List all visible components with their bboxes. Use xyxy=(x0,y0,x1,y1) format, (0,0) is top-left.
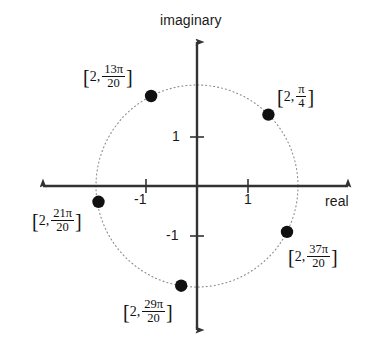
fraction-pi-over-4: π 4 xyxy=(296,83,306,110)
point-label-13pi-over-20: [ 2 , 13π 20 ] xyxy=(83,63,133,90)
data-point-13pi-over-20 xyxy=(145,90,157,102)
fraction-numerator-pi-over-4: π xyxy=(296,83,306,96)
comma-37pi-over-20: , xyxy=(302,250,306,264)
comma-21pi-over-20: , xyxy=(46,214,50,228)
bracket-close-pi-over-4: ] xyxy=(307,87,314,107)
magnitude-29pi-over-20: 2 xyxy=(130,305,137,319)
fraction-numerator-13pi-over-20: 13π xyxy=(102,63,125,76)
fraction-numerator-29pi-over-20: 29π xyxy=(142,298,165,311)
fraction-37pi-over-20: 37π 20 xyxy=(307,243,330,270)
bracket-close-13pi-over-20: ] xyxy=(126,67,133,87)
data-point-37pi-over-20 xyxy=(281,226,293,238)
point-label-21pi-over-20: [ 2 , 21π 20 ] xyxy=(32,207,82,234)
bracket-close-29pi-over-20: ] xyxy=(166,302,173,322)
fraction-denominator-pi-over-4: 4 xyxy=(296,97,306,110)
real-axis-label: real xyxy=(325,193,349,209)
bracket-close-37pi-over-20: ] xyxy=(331,247,338,267)
fraction-21pi-over-20: 21π 20 xyxy=(51,207,74,234)
imaginary-axis-label: imaginary xyxy=(160,12,222,28)
comma-29pi-over-20: , xyxy=(137,305,141,319)
comma-pi-over-4: , xyxy=(291,90,295,104)
bracket-open-29pi-over-20: [ xyxy=(123,302,130,322)
polar-pair-37pi-over-20: [ 2 , 37π 20 ] xyxy=(288,243,338,270)
tick-label-x-positive-one: 1 xyxy=(244,191,252,207)
fraction-13pi-over-20: 13π 20 xyxy=(102,63,125,90)
fraction-29pi-over-20: 29π 20 xyxy=(142,298,165,325)
bracket-open-21pi-over-20: [ xyxy=(32,211,39,231)
bracket-open-37pi-over-20: [ xyxy=(288,247,295,267)
point-label-37pi-over-20: [ 2 , 37π 20 ] xyxy=(288,243,338,270)
data-point-21pi-over-20 xyxy=(92,196,104,208)
data-point-29pi-over-20 xyxy=(175,280,187,292)
magnitude-37pi-over-20: 2 xyxy=(295,250,302,264)
tick-label-x-negative-one: -1 xyxy=(134,191,146,207)
point-label-29pi-over-20: [ 2 , 29π 20 ] xyxy=(123,298,173,325)
polar-pair-29pi-over-20: [ 2 , 29π 20 ] xyxy=(123,298,173,325)
polar-pair-pi-over-4: [ 2 , π 4 ] xyxy=(277,83,314,110)
fraction-numerator-21pi-over-20: 21π xyxy=(51,207,74,220)
data-point-pi-over-4 xyxy=(262,108,274,120)
magnitude-21pi-over-20: 2 xyxy=(39,214,46,228)
bracket-open-pi-over-4: [ xyxy=(277,87,284,107)
bracket-close-21pi-over-20: ] xyxy=(75,211,82,231)
tick-label-y-negative-one: -1 xyxy=(166,227,178,243)
tick-label-y-positive-one: 1 xyxy=(172,128,180,144)
polar-pair-13pi-over-20: [ 2 , 13π 20 ] xyxy=(83,63,133,90)
fraction-denominator-37pi-over-20: 20 xyxy=(310,257,327,270)
fraction-denominator-29pi-over-20: 20 xyxy=(145,312,162,325)
comma-13pi-over-20: , xyxy=(97,70,101,84)
magnitude-13pi-over-20: 2 xyxy=(90,70,97,84)
fraction-denominator-13pi-over-20: 20 xyxy=(105,77,122,90)
argand-diagram-figure: imaginary real -1 1 1 -1 [ 2 , 13π 20 ] … xyxy=(0,0,379,344)
fraction-denominator-21pi-over-20: 20 xyxy=(54,221,71,234)
point-label-pi-over-4: [ 2 , π 4 ] xyxy=(277,83,314,110)
magnitude-pi-over-4: 2 xyxy=(284,90,291,104)
bracket-open-13pi-over-20: [ xyxy=(83,67,90,87)
polar-pair-21pi-over-20: [ 2 , 21π 20 ] xyxy=(32,207,82,234)
argand-plot-canvas xyxy=(0,0,379,344)
fraction-numerator-37pi-over-20: 37π xyxy=(307,243,330,256)
